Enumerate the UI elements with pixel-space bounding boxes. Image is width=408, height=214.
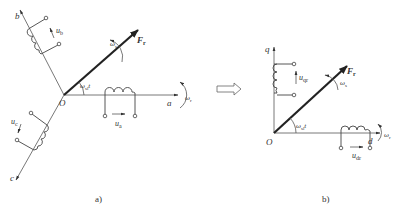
phase-a-winding (103, 88, 137, 118)
abc-to-dq-transformation-diagram: O a b c ua ub uc Fr ωslt ωs ωr a) (0, 0, 408, 214)
q-winding (273, 62, 296, 97)
axis-label-a: a (167, 98, 172, 108)
fr-vector-b (274, 66, 347, 133)
voltage-label-ub: ub (56, 26, 63, 36)
caption-b: b) (322, 194, 330, 204)
voltage-label-uqr: uqr (299, 73, 308, 83)
voltage-label-uc: uc (11, 117, 18, 127)
transform-arrow (217, 83, 241, 95)
vector-label-fr-a: Fr (136, 35, 146, 46)
b-axis (20, 10, 64, 95)
phase-b-winding (27, 16, 61, 54)
axis-label-b: b (15, 11, 20, 21)
vector-speed-label-b: ωs (340, 79, 347, 88)
origin-label-b: O (266, 137, 273, 147)
vector-label-fr-b: Fr (346, 66, 356, 77)
angle-label-b: ωslt (296, 122, 307, 131)
phase-c-winding (15, 111, 48, 150)
rotor-speed-label-a: ωr (185, 94, 192, 103)
panel-b: O d q udr uqr Fr ωslt ωs ωr b) (265, 44, 391, 204)
voltage-label-udr: udr (352, 151, 361, 161)
panel-a: O a b c ua ub uc Fr ωslt ωs ωr a) (10, 10, 192, 204)
rotor-rotation-arc-b (378, 124, 382, 141)
vector-speed-label-a: ωs (110, 40, 117, 49)
d-winding (339, 126, 372, 150)
origin-label-a: O (59, 98, 66, 108)
rotor-speed-label-b: ωr (384, 131, 391, 140)
fr-vector (64, 30, 138, 95)
angle-label-a: ωslt (80, 82, 91, 91)
axis-label-c: c (10, 173, 14, 183)
caption-a: a) (95, 194, 102, 204)
c-axis (16, 95, 64, 180)
axis-label-d: d (368, 136, 373, 146)
axis-label-q: q (265, 44, 270, 54)
voltage-label-ua: ua (115, 119, 122, 129)
